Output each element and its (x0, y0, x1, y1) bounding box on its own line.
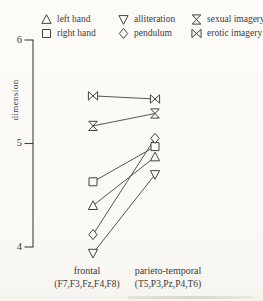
scan-artifact (128, 296, 253, 299)
y-tick-label-4: 4 (9, 241, 22, 253)
y-axis-label: dimension (10, 62, 22, 138)
x-category-label: parieto-temporal (113, 264, 223, 277)
chart-canvas (0, 0, 263, 301)
legend-label: sexual imagery (207, 13, 263, 26)
legend-label: right hand (57, 27, 96, 40)
diamond-icon (117, 27, 130, 40)
square-icon (40, 27, 53, 40)
x-category-sublabel: (T5,P3,Pz,P4,T6) (113, 277, 223, 291)
marker-bowtie-frontal (88, 92, 97, 100)
legend-label: left hand (57, 13, 91, 26)
triangle-down-icon (117, 13, 130, 26)
x-category-parieto-temporal: parieto-temporal (T5,P3,Pz,P4,T6) (113, 264, 223, 291)
marker-triangle-down-frontal (88, 249, 97, 258)
marker-diamond-parieto-temporal (151, 133, 159, 143)
hourglass-icon (190, 13, 203, 26)
legend-item-erotic-imagery: erotic imagery (190, 26, 262, 40)
marker-hourglass-frontal (89, 121, 98, 130)
marker-triangle-up-parieto-temporal (150, 152, 159, 161)
legend-label: alliteration (134, 13, 175, 26)
marker-triangle-up-frontal (88, 201, 97, 210)
legend-item-pendulum: pendulum (117, 26, 172, 40)
series-line-erotic-imagery (93, 96, 155, 99)
marker-hourglass-parieto-temporal (151, 109, 160, 118)
series-line-sexual-imagery (93, 113, 155, 125)
legend-item-alliteration: alliteration (117, 12, 175, 26)
legend-item-right-hand: right hand (40, 26, 96, 40)
bowtie-icon (190, 27, 203, 40)
figure: left hand right hand alliteration pendul… (0, 0, 263, 301)
marker-bowtie-parieto-temporal (150, 95, 159, 103)
legend-label: pendulum (134, 27, 172, 40)
legend-label: erotic imagery (207, 27, 262, 40)
legend-item-sexual-imagery: sexual imagery (190, 12, 263, 26)
triangle-up-icon (40, 13, 53, 26)
legend-item-left-hand: left hand (40, 12, 91, 26)
y-tick-label-5: 5 (9, 137, 22, 149)
marker-square-frontal (89, 178, 97, 186)
marker-diamond-frontal (89, 230, 97, 240)
y-tick-label-6: 6 (9, 34, 22, 46)
